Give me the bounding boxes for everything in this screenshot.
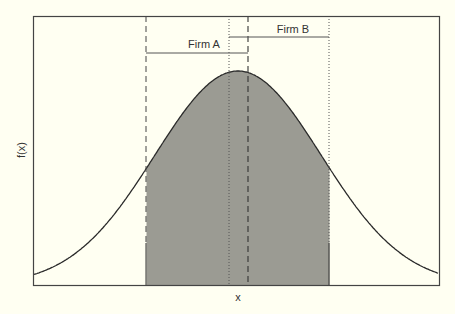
density-chart: Firm A Firm B x f(x) — [0, 0, 455, 314]
y-axis-label: f(x) — [15, 142, 27, 158]
shaded-area — [147, 71, 330, 285]
firm-b-label: Firm B — [277, 23, 309, 35]
firm-a-label: Firm A — [188, 38, 220, 50]
x-axis-label: x — [235, 291, 241, 303]
